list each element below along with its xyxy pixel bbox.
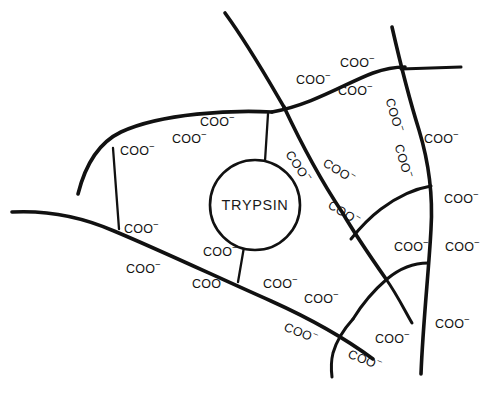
carboxylate-label: COO− [444,190,479,206]
carboxylate-text: COO [172,132,201,146]
carboxylate-text: COO [192,277,221,291]
carboxylate-label: COO− [304,290,339,306]
carboxylate-text: COO [435,317,464,331]
enzyme-bottom-stem [238,247,244,282]
carboxylate-text: COO [338,84,367,98]
carboxylate-label: COO− [338,82,373,98]
carboxylate-label: COO− [172,130,207,146]
carboxylate-text: COO [424,132,453,146]
negative-charge-sign: − [221,274,227,285]
carboxylate-label: COO− [192,275,227,291]
carboxylate-label: COO− [126,260,161,276]
negative-charge-sign: − [155,259,161,270]
negative-charge-sign: − [464,314,470,325]
negative-charge-sign: − [229,112,235,123]
carboxylate-label: COO− [120,142,155,158]
negative-charge-sign: − [473,189,479,200]
negative-charge-sign: − [423,237,429,248]
carboxylate-label: COO− [445,238,480,254]
top-branch-curve [225,13,284,107]
carboxylate-text: COO [340,56,369,70]
cross-horizontal-stub [401,67,461,69]
negative-charge-sign: − [201,129,207,140]
carboxylate-label: COO− [200,113,235,129]
carboxylate-text: COO [375,332,404,346]
enzyme-label: TRYPSIN [222,197,289,213]
enzyme-top-stem [265,114,268,161]
carboxylate-text: COO [203,245,232,259]
negative-charge-sign: − [292,274,298,285]
carboxylate-label: COO− [375,330,410,346]
negative-charge-sign: − [333,289,339,300]
right-inner-branch-lower [353,263,428,319]
carboxylate-text: COO [296,73,325,87]
carboxylate-text: COO [200,115,229,129]
carboxylate-label: COO− [424,130,459,146]
diagonal-tail-curve [386,279,412,323]
carboxylate-text: COO [263,277,292,291]
negative-charge-sign: − [153,219,159,230]
carboxylate-text: COO [126,262,155,276]
carboxylate-label: COO− [203,243,238,259]
carboxylate-label: COO− [394,238,429,254]
carboxylate-text: COO [445,240,474,254]
carboxylate-text: COO [444,192,473,206]
negative-charge-sign: − [369,53,375,64]
carboxylate-text: COO [124,222,153,236]
carboxylate-label: COO− [435,315,470,331]
carboxylate-text: COO [304,292,333,306]
negative-charge-sign: − [149,141,155,152]
negative-charge-sign: − [474,237,480,248]
negative-charge-sign: − [453,129,459,140]
negative-charge-sign: − [232,242,238,253]
carboxylate-text: COO [394,240,423,254]
negative-charge-sign: − [367,81,373,92]
negative-charge-sign: − [325,70,331,81]
negative-charge-sign: − [404,329,410,340]
carboxylate-text: COO [120,144,149,158]
left-vertical-connector [113,148,119,229]
carboxylate-label: COO− [124,220,159,236]
trypsin-carboxylate-diagram: TRYPSIN COO−COO−COO−COO−COO−COO−COO−COO−… [0,0,503,403]
carboxylate-label: COO− [296,71,331,87]
carboxylate-label: COO− [263,275,298,291]
carboxylate-label: COO− [340,54,375,70]
